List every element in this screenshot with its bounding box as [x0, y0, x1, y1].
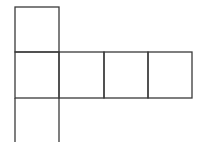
net-square-middle-2 [59, 52, 104, 98]
net-square-top [15, 7, 59, 52]
net-square-middle-1 [15, 52, 59, 98]
cube-net-diagram [0, 0, 201, 142]
net-square-middle-4 [148, 52, 192, 98]
net-square-middle-3 [104, 52, 148, 98]
